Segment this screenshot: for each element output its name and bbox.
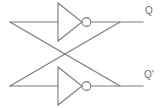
inverter-bottom-triangle-icon: [58, 67, 82, 105]
output-label-q: Q: [145, 6, 153, 16]
circuit-diagram: Q Q': [0, 0, 165, 108]
circuit-schematic-canvas: [0, 0, 165, 108]
inverter-top-bubble-icon: [82, 18, 91, 27]
inverter-top-triangle-icon: [58, 3, 82, 41]
output-label-q-prime: Q': [144, 70, 154, 80]
inverter-bottom-bubble-icon: [82, 82, 91, 91]
